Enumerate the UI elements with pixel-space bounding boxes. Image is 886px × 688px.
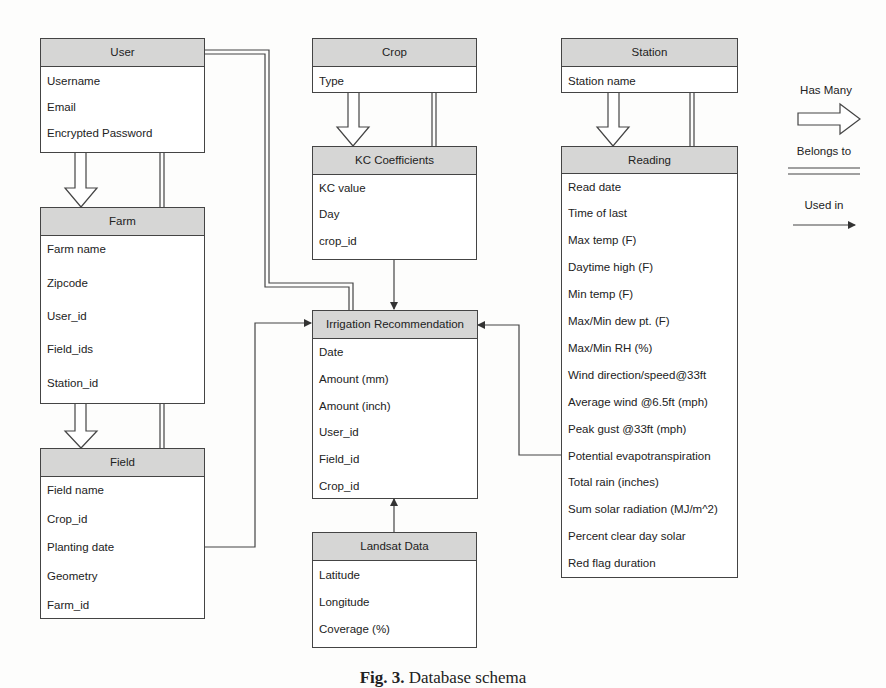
field-row: KC value	[319, 181, 366, 195]
field-row: Geometry	[47, 569, 98, 583]
field-row: Potential evapotranspiration	[568, 449, 711, 463]
entity-title: Crop	[313, 39, 476, 67]
field-row: User_id	[319, 425, 359, 439]
field-row: Farm_id	[47, 598, 89, 612]
field-row: Max/Min RH (%)	[568, 341, 652, 355]
figure-label: Fig. 3.	[360, 668, 405, 687]
used-in-reading-irrigation	[478, 325, 561, 455]
belongs-to-reading-station	[690, 92, 694, 146]
belongs-to-field-farm	[160, 403, 164, 448]
entity-title: Farm	[41, 208, 204, 236]
entity-farm: Farm Farm name Zipcode User_id Field_ids…	[40, 207, 205, 404]
field-row: Field_ids	[47, 342, 93, 356]
field-row: Coverage (%)	[319, 622, 390, 636]
field-row: Field name	[47, 483, 104, 497]
field-row: Wind direction/speed@33ft	[568, 368, 706, 382]
has-many-arrow-farm-field	[65, 403, 97, 448]
field-row: Latitude	[319, 568, 360, 582]
figure-caption-text: Database schema	[409, 668, 527, 687]
entity-title: User	[41, 39, 204, 67]
field-row: Field_id	[319, 452, 359, 466]
field-row: Amount (inch)	[319, 399, 391, 413]
field-row: Min temp (F)	[568, 287, 633, 301]
entity-title: Field	[41, 449, 204, 477]
figure-caption: Fig. 3. Database schema	[0, 668, 886, 688]
field-row: Total rain (inches)	[568, 475, 659, 489]
field-row: Daytime high (F)	[568, 260, 653, 274]
field-row: Time of last	[568, 206, 627, 220]
field-row: Farm name	[47, 242, 106, 256]
entity-title: Station	[562, 39, 737, 67]
legend-used-in-label: Used in	[774, 199, 874, 211]
field-row: Encrypted Password	[47, 126, 152, 140]
legend-has-many-label: Has Many	[776, 84, 876, 96]
field-row: Max temp (F)	[568, 233, 636, 247]
belongs-to-farm-user	[160, 152, 164, 207]
legend-belongs-to-icon	[788, 168, 860, 174]
field-row: Day	[319, 207, 339, 221]
field-row: Type	[319, 74, 344, 88]
field-row: Read date	[568, 180, 621, 194]
entity-crop: Crop Type	[312, 38, 477, 93]
used-in-field-irrigation	[204, 323, 311, 547]
field-row: Crop_id	[47, 512, 87, 526]
entity-kc-coefficients: KC Coefficients KC value Day crop_id	[312, 146, 477, 260]
field-row: Max/Min dew pt. (F)	[568, 314, 670, 328]
field-row: Longitude	[319, 595, 370, 609]
field-row: Crop_id	[319, 479, 359, 493]
legend-has-many-icon	[798, 104, 860, 134]
entity-title: Irrigation Recommendation	[313, 311, 477, 339]
field-row: Peak gust @33ft (mph)	[568, 422, 686, 436]
entity-title: Reading	[562, 147, 737, 174]
field-row: Sum solar radiation (MJ/m^2)	[568, 502, 718, 516]
field-row: Planting date	[47, 540, 114, 554]
field-row: Percent clear day solar	[568, 529, 686, 543]
field-row: Red flag duration	[568, 556, 656, 570]
field-row: Station name	[568, 74, 636, 88]
field-row: Zipcode	[47, 276, 88, 290]
field-row: Amount (mm)	[319, 372, 389, 386]
entity-station: Station Station name	[561, 38, 738, 93]
has-many-arrow-station-reading	[597, 92, 629, 146]
field-row: Date	[319, 345, 343, 359]
entity-reading: Reading Read date Time of last Max temp …	[561, 146, 738, 578]
entity-field: Field Field name Crop_id Planting date G…	[40, 448, 205, 619]
legend-belongs-to-label: Belongs to	[774, 145, 874, 157]
field-row: Email	[47, 100, 76, 114]
entity-landsat-data: Landsat Data Latitude Longitude Coverage…	[312, 532, 477, 648]
entity-user: User Username Email Encrypted Password	[40, 38, 205, 153]
field-row: User_id	[47, 309, 87, 323]
field-row: crop_id	[319, 234, 357, 248]
field-row: Average wind @6.5ft (mph)	[568, 395, 708, 409]
entity-title: Landsat Data	[313, 533, 476, 561]
has-many-arrow-crop-kc	[337, 92, 369, 146]
field-row: Username	[47, 74, 100, 88]
field-row: Station_id	[47, 376, 98, 390]
entity-title: KC Coefficients	[313, 147, 476, 175]
belongs-to-kc-crop	[432, 92, 436, 146]
entity-irrigation-recommendation: Irrigation Recommendation Date Amount (m…	[312, 310, 478, 499]
has-many-arrow-user-farm	[65, 152, 97, 207]
